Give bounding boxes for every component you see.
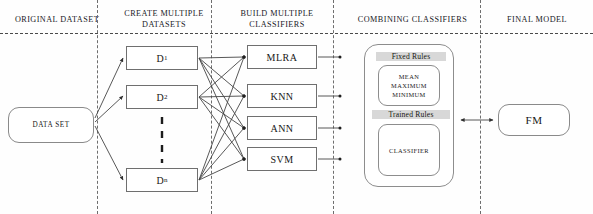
edge-d1-ann [199, 58, 244, 128]
dataset-box-dn[interactable]: Dn [126, 168, 198, 192]
column-divider-4 [480, 0, 481, 214]
final-model-box[interactable]: FM [498, 104, 570, 136]
fixed-rules-box[interactable]: MEAN MAXIMUM MINIMUM [378, 65, 440, 106]
edge-d2-knn [199, 96, 244, 97]
edge-dataset-to-d2 [95, 96, 123, 122]
classifier-box-svm[interactable]: SVM [247, 147, 317, 171]
edge-d1-knn [199, 58, 244, 96]
edge-dataset-to-dn [95, 126, 123, 180]
edge-dn-ann [199, 128, 244, 180]
classifier-box-ann[interactable]: ANN [247, 116, 317, 140]
column-header-original-dataset: ORIGINAL DATASET [2, 14, 112, 25]
column-header-combining-classifiers: COMBINING CLASSIFIERS [340, 14, 485, 25]
column-divider-3 [333, 0, 334, 214]
fixed-rule-mean: MEAN [399, 72, 419, 81]
dataset-label-d1: D [156, 53, 164, 64]
edge-dn-knn [199, 96, 244, 180]
classifier-box-mlra[interactable]: MLRA [247, 45, 317, 69]
edge-dn-svm [199, 159, 244, 180]
edge-d1-mlra [199, 57, 244, 58]
dataset-label-d2: D [156, 92, 164, 103]
dataset-label-dn: D [156, 175, 164, 186]
edge-d2-svm [199, 97, 244, 159]
dataset-box-d2[interactable]: D2 [126, 85, 198, 109]
column-header-final-model: FINAL MODEL [487, 14, 587, 25]
column-header-build-multiple-classifiers: BUILD MULTIPLE CLASSIFIERS [222, 8, 332, 30]
fixed-rule-minimum: MINIMUM [392, 90, 425, 99]
dataset-subscript-d2: 2 [164, 93, 168, 101]
edge-dataset-to-d1 [95, 58, 123, 118]
edge-d2-ann [199, 97, 244, 128]
trained-rule-classifier: CLASSIFIER [389, 146, 429, 155]
trained-rules-box[interactable]: CLASSIFIER [378, 124, 440, 176]
fixed-rules-label: Fixed Rules [376, 52, 446, 61]
header-divider-line [0, 33, 593, 34]
dataset-subscript-dn: n [164, 176, 168, 184]
dataset-box-d1[interactable]: D1 [126, 46, 198, 70]
edge-d1-svm [199, 58, 244, 159]
fixed-rule-maximum: MAXIMUM [391, 81, 427, 90]
column-header-create-multiple-datasets: CREATE MULTIPLE DATASETS [104, 8, 224, 30]
column-divider-1 [97, 0, 98, 214]
column-divider-2 [211, 0, 212, 214]
edge-d2-mlra [199, 57, 244, 97]
data-set-box[interactable]: DATA SET [8, 107, 94, 143]
dataset-subscript-d1: 1 [164, 54, 168, 62]
edge-dn-mlra [199, 57, 244, 180]
trained-rules-label: Trained Rules [372, 110, 450, 119]
classifier-box-knn[interactable]: KNN [247, 84, 317, 108]
diagram-canvas: ORIGINAL DATASET CREATE MULTIPLE DATASET… [0, 0, 593, 214]
